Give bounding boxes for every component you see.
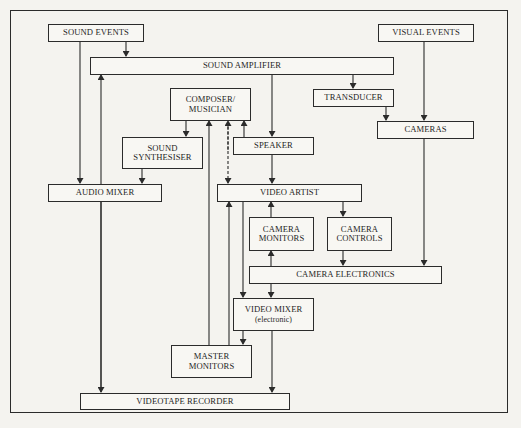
node-label-line2: MONITORS [259,234,305,244]
node-label-line2: SYNTHESISER [133,153,191,163]
node-video-mixer: VIDEO MIXER (electronic) [233,298,314,331]
node-sound-synthesiser: SOUND SYNTHESISER [122,137,203,169]
node-video-artist: VIDEO ARTIST [217,184,362,202]
node-sound-events: SOUND EVENTS [48,24,144,42]
node-label: VIDEO ARTIST [260,188,319,198]
node-camera-electronics: CAMERA ELECTRONICS [249,266,442,284]
node-label-line2: (electronic) [245,315,303,325]
node-label: SOUND AMPLIFIER [203,61,281,71]
node-cameras: CAMERAS [377,121,474,139]
node-visual-events: VISUAL EVENTS [378,24,474,42]
node-transducer: TRANSDUCER [313,89,394,107]
node-master-monitors: MASTER MONITORS [171,345,252,378]
node-label: VISUAL EVENTS [392,28,460,38]
node-label-line2: CONTROLS [336,234,382,244]
diagram-canvas: SOUND EVENTS VISUAL EVENTS SOUND AMPLIFI… [0,0,521,428]
node-label-line2: MONITORS [189,362,235,372]
node-label: SPEAKER [254,141,293,151]
node-audio-mixer: AUDIO MIXER [48,184,162,202]
node-sound-amplifier: SOUND AMPLIFIER [90,57,394,75]
node-label: CAMERAS [404,125,446,135]
node-videotape-recorder: VIDEOTAPE RECORDER [80,393,290,410]
node-composer-musician: COMPOSER/ MUSICIAN [170,88,251,121]
node-camera-monitors: CAMERA MONITORS [249,217,314,251]
node-speaker: SPEAKER [233,137,314,155]
node-label: SOUND EVENTS [63,28,129,38]
node-label: VIDEOTAPE RECORDER [136,397,233,407]
node-label-line2: MUSICIAN [186,105,236,115]
node-label-line1: VIDEO MIXER [245,305,303,315]
node-label: CAMERA ELECTRONICS [296,270,395,280]
node-label: AUDIO MIXER [76,188,135,198]
node-label: TRANSDUCER [324,93,382,103]
node-camera-controls: CAMERA CONTROLS [327,217,392,251]
